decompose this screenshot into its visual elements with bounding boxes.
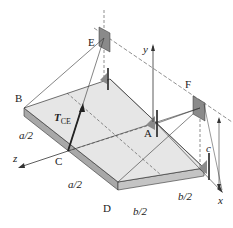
label-force-tce: TCE (54, 112, 71, 126)
label-e: E (88, 37, 95, 48)
dim-a-half-lower: a/2 (68, 179, 82, 190)
dim-b-half-left: b/2 (133, 206, 147, 217)
dim-b-half-right: b/2 (178, 191, 192, 202)
z-axis-arrowhead (18, 163, 25, 168)
label-x-axis: x (218, 195, 223, 206)
dim-a-half-upper: a/2 (19, 130, 33, 141)
c-arrow-top (217, 117, 221, 123)
diagram-graphics (0, 0, 233, 228)
plate-cable-diagram: E F B A C D y z x TCE a/2 a/2 b/2 b/2 c (0, 0, 233, 228)
label-f: F (185, 79, 191, 90)
label-y-axis: y (143, 44, 148, 55)
label-c: C (55, 156, 62, 167)
label-b: B (15, 93, 22, 104)
label-z-axis: z (13, 153, 17, 164)
y-axis-arrowhead (151, 44, 155, 51)
label-a: A (144, 128, 152, 139)
force-symbol: T (54, 111, 61, 123)
dim-c: c (206, 143, 211, 154)
force-subscript: CE (61, 117, 71, 126)
label-d: D (103, 203, 111, 214)
